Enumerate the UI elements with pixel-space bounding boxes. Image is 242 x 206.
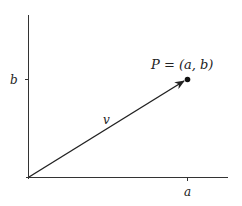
x-tick-label: a [184,185,191,199]
y-tick-label: b [10,73,18,87]
point-p [185,77,191,83]
vector-v [29,81,184,177]
point-label: P = (a, b) [150,57,213,72]
vector-diagram: P = (a, b) v b a [0,0,242,206]
vector-label: v [103,113,110,127]
